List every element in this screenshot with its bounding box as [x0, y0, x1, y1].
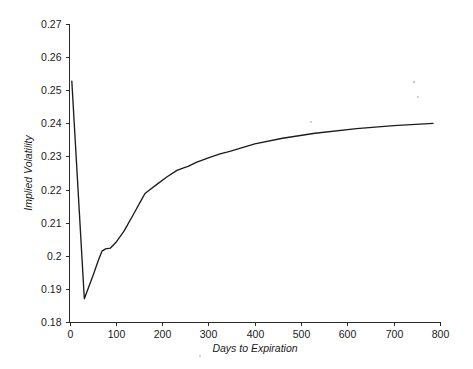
y-tick-label: 0.25 [41, 84, 62, 96]
scan-speck [413, 81, 416, 84]
x-tick-label: 600 [339, 328, 357, 340]
y-tick-label: 0.23 [41, 150, 62, 162]
chart-canvas: 0.180.190.20.210.220.230.240.250.260.27 … [0, 0, 473, 369]
scan-speck [310, 121, 312, 123]
scan-speck [417, 96, 419, 98]
x-tick-label: 700 [386, 328, 404, 340]
y-tick-label: 0.2 [47, 250, 62, 262]
x-tick-label: 200 [154, 328, 172, 340]
x-tick-label: 400 [247, 328, 265, 340]
x-tick-label: 100 [108, 328, 126, 340]
y-tick-label: 0.26 [41, 51, 62, 63]
x-tick-label: 0 [68, 328, 74, 340]
y-axis-title: Implied Volatility [22, 135, 34, 211]
volatility-curve [72, 81, 433, 299]
y-tick-label: 0.19 [41, 283, 62, 295]
y-tick-label: 0.22 [41, 184, 62, 196]
y-tick-label: 0.27 [41, 18, 62, 30]
x-tick-label: 800 [432, 328, 450, 340]
implied-volatility-chart: 0.180.190.20.210.220.230.240.250.260.27 … [0, 0, 473, 369]
x-tick-label: 500 [293, 328, 311, 340]
scan-speck [199, 355, 201, 357]
y-axis-tick-labels: 0.180.190.20.210.220.230.240.250.260.27 [41, 18, 62, 328]
y-axis-tick-marks [66, 25, 70, 323]
y-tick-label: 0.21 [41, 217, 62, 229]
y-tick-label: 0.24 [41, 117, 62, 129]
x-axis-title: Days to Expiration [212, 342, 297, 354]
x-tick-label: 300 [200, 328, 218, 340]
y-tick-label: 0.18 [41, 316, 62, 328]
x-axis-tick-labels: 0100200300400500600700800 [68, 328, 450, 340]
